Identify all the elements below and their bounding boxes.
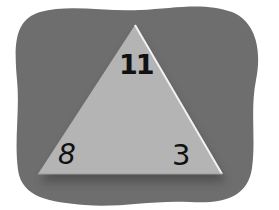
fact-triangle-scene <box>0 0 279 210</box>
top-number: 11 <box>119 51 153 78</box>
bottom-left-number: 8 <box>58 141 76 169</box>
bottom-right-number: 3 <box>172 141 190 170</box>
